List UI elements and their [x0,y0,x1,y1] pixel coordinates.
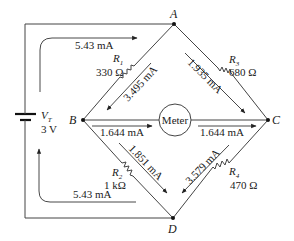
node-c-label: C [272,113,281,127]
current-meter-c: 1.644 mA [200,126,244,138]
current-a-c: 1.935 mA [186,56,226,96]
bridge-circuit-diagram: VT 3 V Meter A B C D R1 330 Ω R3 68 [0,0,294,241]
battery-symbol [15,104,36,126]
current-source-top: 5.43 mA [75,39,114,51]
current-b-meter: 1.644 mA [100,126,144,138]
r3-value: 680 Ω [229,66,256,78]
r4-label: R4 [228,165,240,180]
r1-value: 330 Ω [96,66,123,78]
meter-label: Meter [162,114,189,126]
node-b-label: B [69,113,77,127]
source-label: VT [41,109,53,124]
node-a-dot [172,22,176,26]
r1-label: R1 [112,52,123,67]
node-c-dot [266,118,270,122]
node-b-dot [81,118,85,122]
node-d-dot [171,216,175,220]
source-value: 3 V [41,123,57,135]
current-source-bottom: 5.43 mA [73,188,112,200]
node-a-label: A [169,7,178,21]
node-d-label: D [167,222,177,236]
r4-value: 470 Ω [230,179,257,191]
